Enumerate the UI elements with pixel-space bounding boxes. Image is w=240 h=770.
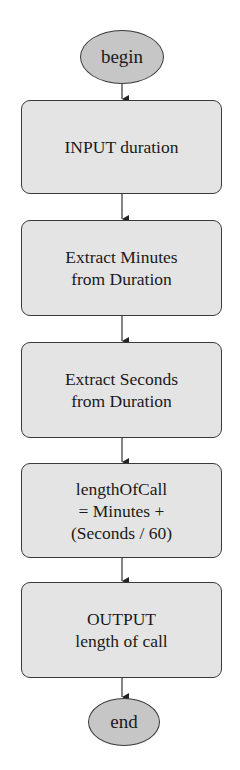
step-text: from Duration	[71, 268, 172, 290]
process-extract-seconds: Extract Seconds from Duration	[21, 342, 222, 438]
end-label: end	[110, 711, 137, 733]
step-text: (Seconds / 60)	[71, 522, 172, 544]
flowchart: begin INPUT duration Extract Minutes fro…	[0, 0, 240, 770]
end-terminal: end	[88, 698, 160, 746]
step-text: OUTPUT	[87, 608, 156, 630]
process-output-length: OUTPUT length of call	[21, 582, 222, 678]
step-text: = Minutes +	[79, 500, 165, 522]
step-text: INPUT duration	[65, 136, 179, 158]
process-extract-minutes: Extract Minutes from Duration	[21, 220, 222, 316]
step-text: length of call	[75, 630, 167, 652]
start-terminal: begin	[80, 30, 164, 84]
process-compute-length: lengthOfCall = Minutes + (Seconds / 60)	[21, 463, 222, 558]
step-text: Extract Minutes	[65, 246, 177, 268]
step-text: lengthOfCall	[76, 478, 167, 500]
start-label: begin	[101, 46, 143, 68]
process-input-duration: INPUT duration	[21, 100, 222, 194]
step-text: from Duration	[71, 390, 172, 412]
step-text: Extract Seconds	[65, 368, 178, 390]
